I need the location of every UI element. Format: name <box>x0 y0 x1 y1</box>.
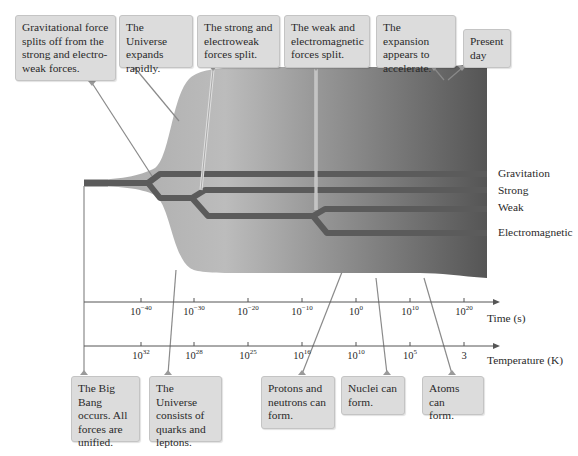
time-tick: 1010 <box>401 306 419 317</box>
callout-line: The expansion <box>383 21 449 48</box>
temperature-tick: 1028 <box>185 350 203 361</box>
time-axis-ticks <box>141 298 464 302</box>
callout-line: Gravitational force <box>22 21 109 35</box>
callout-expansion-accelerates: The expansion appears to accelerate. <box>376 15 456 68</box>
callout-line: The Universe <box>156 382 215 409</box>
callout-line: electroweak <box>204 35 273 49</box>
callout-line: day <box>470 49 504 63</box>
time-axis-arrow-icon <box>493 299 500 305</box>
callout-line: Nuclei can <box>348 382 398 396</box>
callout-line: unified. <box>78 436 133 450</box>
callout-line: weak forces. <box>22 62 109 76</box>
callout-weak-em-split: The weak and electromagnetic forces spli… <box>284 15 370 68</box>
callout-quarks-leptons: The Universe consists of quarks and lept… <box>149 376 222 442</box>
force-label-weak: Weak <box>498 201 524 213</box>
callout-line: Present <box>470 35 504 49</box>
callout-atoms: Atoms can form. <box>422 376 484 415</box>
callout-line: forces split. <box>204 48 273 62</box>
callout-gravitational-split: Gravitational force splits off from the … <box>15 15 116 81</box>
time-tick: 100 <box>349 306 363 317</box>
callout-line: accelerate. <box>383 62 449 76</box>
temperature-axis-label: Temperature (K) <box>487 354 563 366</box>
time-axis-label: Time (s) <box>487 312 526 324</box>
universe-history-diagram: Gravitational force splits off from the … <box>0 0 578 456</box>
callout-line: rapidly. <box>126 62 186 76</box>
callout-line: form. <box>429 409 477 423</box>
callout-line: form. <box>268 409 328 423</box>
force-label-electromagnetic: Electromagnetic <box>498 226 573 238</box>
callout-line: neutrons can <box>268 396 328 410</box>
callout-line: expands <box>126 48 186 62</box>
callout-nuclei: Nuclei can form. <box>341 376 405 415</box>
temperature-tick: 1016 <box>293 350 311 361</box>
callout-line: forces are <box>78 423 133 437</box>
callout-line: leptons. <box>156 436 215 450</box>
callout-line: forces split. <box>291 48 363 62</box>
temperature-axis-ticks <box>141 342 464 346</box>
callout-line: appears to <box>383 48 449 62</box>
callout-line: quarks and <box>156 423 215 437</box>
callout-line: The weak and <box>291 21 363 35</box>
callout-line: The strong and <box>204 21 273 35</box>
time-tick: 10−40 <box>130 306 151 317</box>
force-label-strong: Strong <box>498 184 528 196</box>
callout-line: The Big Bang <box>78 382 133 409</box>
force-label-gravitation: Gravitation <box>498 167 550 179</box>
callout-line: electromagnetic <box>291 35 363 49</box>
callout-big-bang: The Big Bang occurs. All forces are unif… <box>71 376 140 442</box>
callout-protons-neutrons: Protons and neutrons can form. <box>261 376 335 429</box>
callout-line: occurs. All <box>78 409 133 423</box>
temperature-tick: 3 <box>461 350 466 361</box>
temperature-tick: 1010 <box>347 350 365 361</box>
callout-line: consists of <box>156 409 215 423</box>
callout-present-day: Present day <box>463 29 511 68</box>
time-tick: 10−20 <box>237 306 258 317</box>
time-tick: 1020 <box>455 306 473 317</box>
temperature-tick: 1032 <box>132 350 150 361</box>
callout-line: The Universe <box>126 21 186 48</box>
callout-line: splits off from the <box>22 35 109 49</box>
callout-strong-electroweak-split: The strong and electroweak forces split. <box>197 15 280 68</box>
temperature-axis-arrow-icon <box>493 343 500 349</box>
callout-line: form. <box>348 396 398 410</box>
time-tick: 10−10 <box>291 306 312 317</box>
callout-line: strong and electro- <box>22 48 109 62</box>
callout-universe-expands: The Universe expands rapidly. <box>119 15 193 68</box>
temperature-tick: 1025 <box>239 350 257 361</box>
callout-line: Atoms can <box>429 382 477 409</box>
temperature-tick: 105 <box>403 350 417 361</box>
universe-expansion-shape <box>84 60 487 278</box>
callout-line: Protons and <box>268 382 328 396</box>
time-tick: 10−30 <box>183 306 204 317</box>
